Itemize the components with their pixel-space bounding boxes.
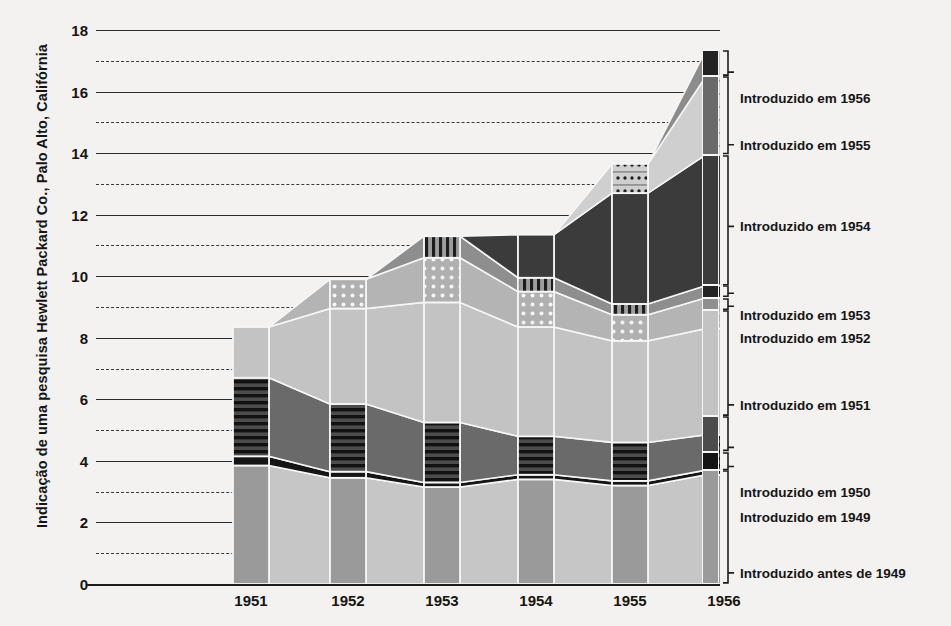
legend-swatch-y1952 <box>702 298 719 310</box>
bar-segment-1954-y1954 <box>518 235 554 278</box>
legend-brace <box>722 452 735 470</box>
bar-segment-1953-y1951 <box>424 302 460 422</box>
band-segment <box>648 329 706 443</box>
band-segment <box>460 479 518 584</box>
legend-label-y1950: Introduzido em 1950 <box>740 485 871 500</box>
legend-brace <box>722 50 735 76</box>
legend-label-y1954: Introduzido em 1954 <box>740 219 871 234</box>
y-tick-label: 0 <box>80 576 88 593</box>
legend-brace <box>722 298 735 310</box>
x-tick-label-1952: 1952 <box>331 592 364 609</box>
y-tick-label: 14 <box>71 145 88 162</box>
x-tick-label-1954: 1954 <box>519 592 552 609</box>
legend-label-y1953: Introduzido em 1953 <box>740 308 871 323</box>
y-tick-label: 16 <box>71 83 88 100</box>
legend-brace <box>722 416 735 451</box>
bar-segment-1954-pre1949 <box>518 479 554 584</box>
bar-segment-1952-pre1949 <box>330 478 366 584</box>
bands-svg <box>96 30 720 584</box>
legend-swatch-y1953 <box>702 285 719 297</box>
legend-swatch-y1949 <box>702 452 719 470</box>
stacked-area-bands <box>96 30 720 584</box>
band-segment <box>554 436 612 481</box>
bar-segment-1952-y1952 <box>330 279 366 308</box>
y-tick-label: 18 <box>71 22 88 39</box>
plot-area: 024681012141618 195119521953195419551956 <box>96 30 720 584</box>
x-tick-label-1956: 1956 <box>707 592 740 609</box>
bar-segment-1955-y1954 <box>612 193 648 304</box>
band-segment <box>554 479 612 584</box>
legend-brace <box>722 76 735 154</box>
gridline-major <box>86 584 720 586</box>
bar-segment-1955-y1952 <box>612 315 648 341</box>
bar-segment-1954-y1952 <box>518 292 554 327</box>
legend-brace <box>722 310 735 416</box>
legend-label-y1951: Introduzido em 1951 <box>740 398 871 413</box>
bar-segment-1952-y1949 <box>330 472 366 478</box>
y-tick-label: 8 <box>80 329 88 346</box>
bar-segment-1951-y1951 <box>233 327 269 378</box>
legend-swatch-y1955 <box>702 76 719 154</box>
bar-segment-1955-y1950 <box>612 442 648 480</box>
legend-swatch-y1954 <box>702 155 719 286</box>
x-tick-label-1955: 1955 <box>613 592 646 609</box>
bar-segment-1955-pre1949 <box>612 486 648 584</box>
y-tick-label: 4 <box>80 452 88 469</box>
legend-brace <box>722 470 735 584</box>
bar-segment-1953-y1950 <box>424 422 460 482</box>
y-tick-label: 2 <box>80 514 88 531</box>
y-tick-label: 12 <box>71 206 88 223</box>
x-tick-label-1953: 1953 <box>425 592 458 609</box>
bar-segment-1955-y1951 <box>612 341 648 443</box>
bar-segment-1953-y1953 <box>424 236 460 258</box>
band-segment <box>269 466 330 584</box>
band-segment <box>554 327 612 442</box>
legend-swatch-y1951 <box>702 310 719 416</box>
band-segment <box>366 478 424 584</box>
x-tick-label-1951: 1951 <box>234 592 267 609</box>
legend-label-y1952: Introduzido em 1952 <box>740 331 871 346</box>
legend-label-y1949: Introduzido em 1949 <box>740 510 871 525</box>
band-segment <box>648 475 706 584</box>
y-tick-label: 10 <box>71 268 88 285</box>
bar-segment-1952-y1950 <box>330 404 366 472</box>
legend-swatch-y1956 <box>702 50 719 76</box>
y-tick-label: 6 <box>80 391 88 408</box>
bar-segment-1952-y1951 <box>330 309 366 404</box>
bar-segment-1955-y1955 <box>612 164 648 193</box>
y-axis-title: Indicação de uma pesquisa Hewlett Packar… <box>34 6 50 566</box>
bar-segment-1953-y1952 <box>424 258 460 303</box>
legend-label-y1956: Introduzido em 1956 <box>740 91 871 106</box>
legend-label-y1955: Introduzido em 1955 <box>740 138 871 153</box>
legend-swatch-y1950 <box>702 416 719 451</box>
bar-segment-1954-y1953 <box>518 278 554 292</box>
bar-segment-1951-pre1949 <box>233 466 269 584</box>
bar-segment-1954-y1951 <box>518 327 554 436</box>
bar-segment-1953-pre1949 <box>424 487 460 584</box>
legend-brace <box>722 285 735 297</box>
legend: Introduzido em 1956Introduzido em 1955In… <box>702 30 951 584</box>
legend-brace <box>722 155 735 286</box>
legend-swatch-pre1949 <box>702 470 719 584</box>
band-segment <box>366 302 424 422</box>
bar-segment-1951-y1950 <box>233 378 269 456</box>
legend-label-pre1949: Introduzido antes de 1949 <box>740 566 906 581</box>
bar-segment-1955-y1953 <box>612 304 648 315</box>
bar-segment-1951-y1949 <box>233 456 269 465</box>
bar-segment-1954-y1950 <box>518 436 554 474</box>
